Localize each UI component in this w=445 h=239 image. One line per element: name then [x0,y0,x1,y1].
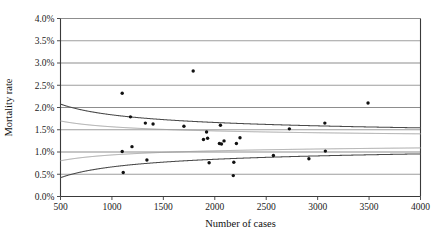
data-point [122,171,125,174]
y-tick-label: 0.5% [35,170,55,180]
data-point [130,145,133,148]
data-point [144,121,147,124]
data-point [220,142,223,145]
chart-canvas: 5001000150020002500300035004000 0.0%0.5%… [0,0,445,239]
y-tick-label: 2.0% [35,103,55,113]
y-tick-label: 1.5% [35,125,55,135]
data-point [219,124,222,127]
data-point [145,158,148,161]
data-point [324,149,327,152]
data-point [232,174,235,177]
data-point [235,142,238,145]
y-tick-label: 1.0% [35,147,55,157]
x-tick-label: 4000 [411,202,430,212]
y-tick-label: 0.0% [35,192,55,202]
x-axis-title: Number of cases [205,218,276,229]
y-tick-label: 4.0% [35,14,55,24]
data-point [191,69,194,72]
x-tick-label: 1000 [102,202,121,212]
data-point [323,121,326,124]
data-point [205,130,208,133]
funnel-plot-figure: 5001000150020002500300035004000 0.0%0.5%… [0,0,445,239]
x-tick-label: 3000 [308,202,327,212]
data-point [238,136,241,139]
data-point [151,122,154,125]
data-point [272,154,275,157]
x-tick-label: 500 [53,202,68,212]
x-tick-label: 1500 [154,202,173,212]
y-axis-title: Mortality rate [3,78,14,136]
data-point [182,124,185,127]
data-point [366,101,369,104]
data-point [129,115,132,118]
data-point [206,137,209,140]
y-tick-label: 2.5% [35,81,55,91]
data-point [307,157,310,160]
y-tick-label: 3.5% [35,36,55,46]
data-point [207,161,210,164]
x-tick-label: 2000 [205,202,224,212]
data-point [288,127,291,130]
y-axis-tick-labels: 0.0%0.5%1.0%1.5%2.0%2.5%3.0%3.5%4.0% [35,14,55,202]
data-point [121,92,124,95]
data-point [232,161,235,164]
data-point [222,139,225,142]
y-tick-label: 3.0% [35,58,55,68]
x-tick-label: 3500 [360,202,379,212]
data-point [202,138,205,141]
data-point [121,150,124,153]
x-tick-label: 2500 [257,202,276,212]
